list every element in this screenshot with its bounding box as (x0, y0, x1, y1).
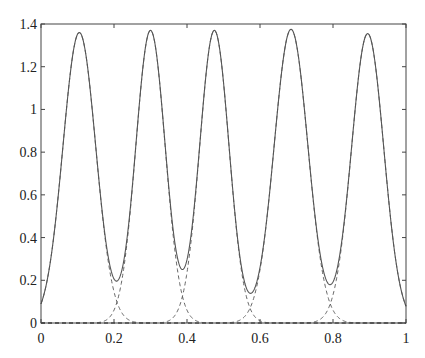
y-tick-label: 0.8 (20, 145, 38, 160)
line-chart: 00.20.40.60.8100.20.40.60.811.21.4 (0, 0, 425, 358)
y-tick-label: 0 (30, 316, 37, 331)
component-curve (41, 30, 406, 323)
y-tick-label: 0.6 (20, 188, 38, 203)
y-tick-label: 1.2 (20, 60, 38, 75)
x-tick-label: 0.8 (324, 331, 342, 346)
sum-curve (41, 29, 406, 306)
plot-frame (41, 24, 406, 323)
chart: 00.20.40.60.8100.20.40.60.811.21.4 (0, 0, 425, 358)
component-curve (41, 29, 406, 323)
x-tick-label: 0 (38, 331, 45, 346)
y-tick-label: 1 (30, 102, 37, 117)
x-tick-label: 0.6 (251, 331, 269, 346)
x-tick-label: 1 (403, 331, 410, 346)
component-curve (41, 33, 406, 323)
component-curve (41, 30, 406, 323)
x-tick-label: 0.2 (105, 331, 123, 346)
y-tick-label: 1.4 (20, 17, 38, 32)
y-tick-label: 0.2 (20, 273, 38, 288)
x-tick-label: 0.4 (178, 331, 196, 346)
y-tick-label: 0.4 (20, 231, 38, 246)
